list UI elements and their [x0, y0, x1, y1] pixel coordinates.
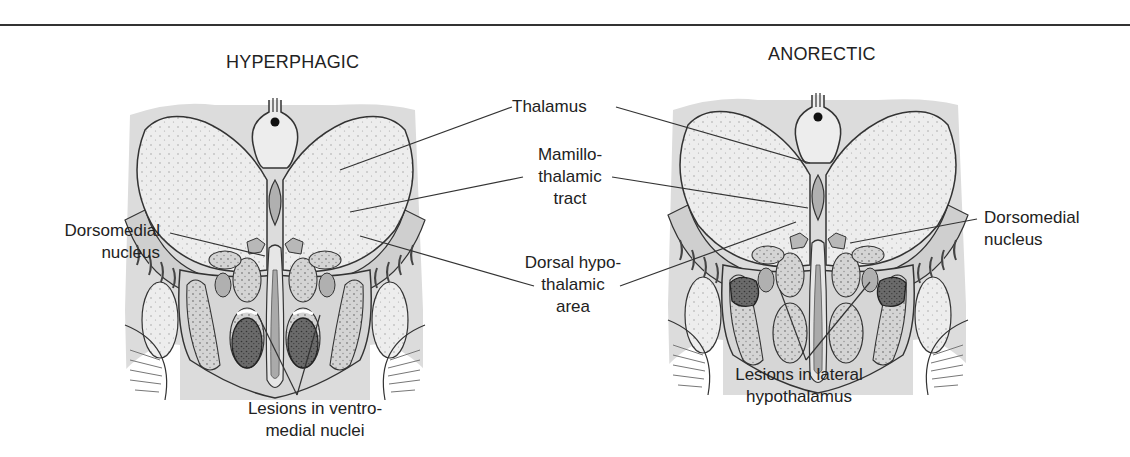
- label-vmn-line1: Lesions in ventro-: [240, 398, 390, 420]
- label-dorsal-hypothalamic-area: Dorsal hypo- thalamic area: [514, 252, 632, 318]
- label-dorsal-line2: thalamic: [514, 274, 632, 296]
- label-dm-left-line2: nucleus: [44, 242, 160, 264]
- label-dm-left-line1: Dorsomedial: [44, 220, 160, 242]
- label-vmn-line2: medial nuclei: [240, 420, 390, 442]
- label-dm-right-line1: Dorsomedial: [984, 207, 1079, 229]
- hyperphagic-brain-section: [125, 98, 425, 400]
- label-dorsomedial-nucleus-right: Dorsomedial nucleus: [984, 207, 1079, 251]
- label-mamillo-line2: thalamic: [528, 166, 612, 188]
- vmn-lesion-left: [232, 318, 262, 368]
- label-thalamus-text: Thalamus: [512, 97, 587, 116]
- label-mamillo-line1: Mamillo-: [528, 144, 612, 166]
- lh-lesion-left: [730, 277, 759, 306]
- label-dorsal-line3: area: [514, 296, 632, 318]
- label-dorsal-line1: Dorsal hypo-: [514, 252, 632, 274]
- label-lh-line1: Lesions in lateral: [724, 364, 874, 386]
- anorectic-brain-section: [668, 93, 968, 395]
- label-dm-right-line2: nucleus: [984, 229, 1079, 251]
- label-dorsomedial-nucleus-left: Dorsomedial nucleus: [44, 220, 160, 264]
- label-mamillothalamic-tract: Mamillo- thalamic tract: [528, 144, 612, 210]
- label-lh-line2: hypothalamus: [724, 386, 874, 408]
- lh-lesion-right: [877, 277, 906, 306]
- vmn-lesion-right: [288, 318, 318, 368]
- label-thalamus: Thalamus: [512, 96, 587, 118]
- label-vmn-lesions: Lesions in ventro- medial nuclei: [240, 398, 390, 442]
- label-mamillo-line3: tract: [528, 188, 612, 210]
- label-lh-lesions: Lesions in lateral hypothalamus: [724, 364, 874, 408]
- hypothalamus-lesion-diagram: [0, 0, 1130, 457]
